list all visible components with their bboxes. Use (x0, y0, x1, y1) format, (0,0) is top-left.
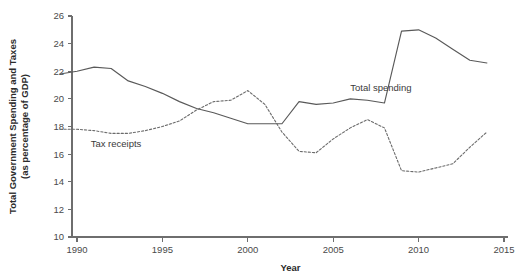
axes (72, 16, 508, 238)
y-tick-label: 20 (53, 93, 64, 104)
x-axis-title: Year (280, 262, 300, 273)
y-axis-ticks: 101214161820222426 (53, 10, 72, 242)
x-tick-label: 1995 (152, 244, 173, 255)
annotation-total-spending: Total spending (350, 82, 411, 93)
y-tick-label: 14 (53, 176, 64, 187)
y-tick-label: 10 (53, 231, 64, 242)
series-annotations: Total spendingTax receipts (91, 82, 412, 150)
x-tick-label: 2000 (237, 244, 258, 255)
series-line-tax-receipts (60, 91, 487, 172)
y-axis-title-line1: Total Government Spending and Taxes (7, 39, 18, 214)
y-axis-title-line2: (as percentage of GDP) (19, 74, 30, 179)
y-tick-label: 22 (53, 66, 64, 77)
y-tick-label: 16 (53, 149, 64, 160)
x-tick-label: 2010 (408, 244, 429, 255)
x-tick-label: 2005 (323, 244, 344, 255)
x-tick-label: 2015 (493, 244, 514, 255)
x-tick-label: 1990 (66, 244, 87, 255)
annotation-tax-receipts: Tax receipts (91, 138, 142, 149)
line-chart: 101214161820222426 199019952000200520102… (0, 0, 523, 278)
data-series (60, 30, 487, 172)
y-tick-label: 24 (53, 38, 64, 49)
y-tick-label: 26 (53, 10, 64, 21)
axis-titles: YearTotal Government Spending and Taxes(… (7, 39, 301, 273)
y-tick-label: 12 (53, 204, 64, 215)
x-axis-ticks: 199019952000200520102015 (66, 237, 514, 255)
series-line-total-spending (60, 30, 487, 124)
chart-container: 101214161820222426 199019952000200520102… (0, 0, 523, 278)
y-tick-label: 18 (53, 121, 64, 132)
